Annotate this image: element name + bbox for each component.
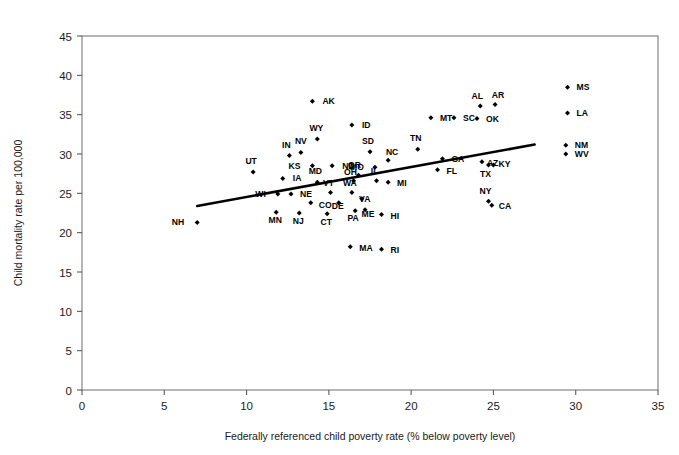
data-point-label: NY	[480, 186, 492, 196]
data-point-marker	[479, 159, 484, 164]
data-point-marker	[274, 210, 279, 215]
x-axis-title: Federally referenced child poverty rate …	[225, 430, 516, 442]
data-point-label: AL	[472, 91, 483, 101]
y-tick-label: 5	[66, 345, 72, 357]
data-point-marker	[415, 147, 420, 152]
data-point-marker	[379, 247, 384, 252]
data-point-label: MI	[397, 178, 407, 188]
x-tick-label: 15	[322, 400, 335, 412]
data-point-label: HI	[391, 211, 400, 221]
data-point-marker	[251, 170, 256, 175]
data-point-label: NV	[295, 136, 307, 146]
y-tick-label: 0	[66, 385, 72, 397]
y-tick-label: 25	[59, 188, 72, 200]
data-point-label: SD	[362, 136, 374, 146]
data-point-label: TN	[410, 133, 421, 143]
data-point-marker	[565, 111, 570, 116]
data-point-marker	[386, 158, 391, 163]
y-tick-label: 15	[59, 267, 72, 279]
data-point-marker	[328, 190, 333, 195]
data-point-marker	[563, 143, 568, 148]
data-point-marker	[349, 190, 354, 195]
data-point-label: KS	[288, 161, 300, 171]
data-point-label: KY	[498, 159, 510, 169]
data-point-marker	[315, 137, 320, 142]
data-point-label: RI	[391, 245, 400, 255]
data-point-marker	[374, 178, 379, 183]
x-tick-label: 10	[240, 400, 253, 412]
data-point-label: CO	[319, 200, 332, 210]
data-point-marker	[289, 192, 294, 197]
data-point-marker	[435, 167, 440, 172]
data-point-label: MD	[309, 166, 322, 176]
chart-container: 05101520253035051015202530354045Federall…	[0, 0, 679, 455]
data-point-label: NJ	[293, 216, 304, 226]
data-point-marker	[298, 150, 303, 155]
data-point-label: PA	[348, 213, 359, 223]
data-point-marker	[310, 99, 315, 104]
y-tick-label: 30	[59, 149, 72, 161]
data-point-label: IA	[293, 173, 302, 183]
x-tick-label: 30	[569, 400, 582, 412]
y-tick-label: 45	[59, 31, 72, 43]
y-tick-label: 40	[59, 70, 72, 82]
data-point-marker	[486, 199, 491, 204]
data-point-label: CT	[320, 217, 332, 227]
data-point-label: NC	[386, 147, 398, 157]
data-point-label: MS	[576, 82, 589, 92]
data-point-label: MT	[440, 113, 453, 123]
data-point-marker	[308, 200, 313, 205]
data-point-label: NE	[300, 189, 312, 199]
data-point-marker	[349, 122, 354, 127]
data-point-marker	[330, 163, 335, 168]
scatter-plot: 05101520253035051015202530354045Federall…	[0, 0, 679, 455]
x-tick-label: 25	[487, 400, 500, 412]
data-point-label: MO	[350, 162, 364, 172]
data-point-label: AR	[492, 90, 505, 100]
data-point-label: VA	[359, 194, 370, 204]
x-tick-label: 5	[161, 400, 167, 412]
y-tick-label: 35	[59, 109, 72, 121]
data-point-label: UT	[245, 156, 257, 166]
data-point-label: NH	[172, 217, 184, 227]
data-point-marker	[379, 212, 384, 217]
data-point-marker	[195, 220, 200, 225]
data-point-label: DE	[332, 201, 344, 211]
data-point-label: FL	[446, 166, 457, 176]
data-point-label: WI	[255, 189, 266, 199]
data-point-label: AK	[322, 96, 335, 106]
data-point-marker	[368, 149, 373, 154]
data-point-marker	[325, 211, 330, 216]
y-tick-label: 10	[59, 306, 72, 318]
data-point-label: ME	[362, 209, 375, 219]
data-point-label: MA	[359, 243, 372, 253]
x-tick-label: 35	[652, 400, 665, 412]
data-point-marker	[565, 85, 570, 90]
data-point-label: MN	[269, 215, 282, 225]
data-point-marker	[428, 115, 433, 120]
data-point-label: CA	[499, 201, 511, 211]
y-axis-title: Child mortality rate per 100,000	[12, 140, 24, 287]
data-point-marker	[478, 104, 483, 109]
data-point-marker	[474, 116, 479, 121]
data-point-marker	[297, 211, 302, 216]
x-tick-label: 0	[79, 400, 85, 412]
y-tick-label: 20	[59, 227, 72, 239]
data-point-label: WY	[309, 123, 323, 133]
data-point-marker	[386, 180, 391, 185]
data-point-marker	[493, 102, 498, 107]
data-point-label: TX	[480, 169, 491, 179]
data-point-label: WV	[575, 149, 589, 159]
data-point-marker	[280, 176, 285, 181]
data-point-marker	[348, 244, 353, 249]
data-point-label: ID	[362, 120, 371, 130]
data-point-label: LA	[576, 108, 587, 118]
data-point-label: WA	[343, 178, 357, 188]
x-tick-label: 20	[405, 400, 418, 412]
data-point-marker	[563, 152, 568, 157]
data-point-marker	[287, 153, 292, 158]
data-point-label: VT	[323, 178, 335, 188]
data-point-label: IN	[282, 140, 291, 150]
data-point-label: GA	[451, 154, 464, 164]
data-point-label: OK	[486, 114, 500, 124]
